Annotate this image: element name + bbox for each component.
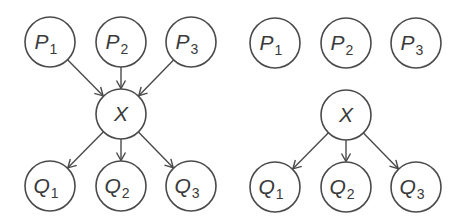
node-p3: P3 xyxy=(166,17,216,67)
node-label: X xyxy=(113,102,129,125)
node-x: X xyxy=(321,90,371,140)
node-x: X xyxy=(96,89,146,139)
node-label: X xyxy=(338,103,354,126)
panel-disconnected-nodes: P1P2P3XQ1Q2Q3 xyxy=(250,18,441,212)
bayesian-network-diagram: P1P2P3XQ1Q2Q3P1P2P3XQ1Q2Q3 xyxy=(0,0,469,218)
edge-x-to-q2 xyxy=(342,140,351,162)
edge-x-to-q2 xyxy=(117,139,126,161)
edge-p3-to-x xyxy=(139,60,174,96)
node-q1: Q1 xyxy=(25,161,75,211)
edge-p1-to-x xyxy=(68,60,104,96)
edge-x-to-q1 xyxy=(68,132,104,168)
edge-p2-to-x xyxy=(117,67,126,89)
node-q3: Q3 xyxy=(391,162,441,212)
node-p1: P1 xyxy=(250,18,300,68)
nodes: P1P2P3XQ1Q2Q3P1P2P3XQ1Q2Q3 xyxy=(25,17,441,212)
node-q1: Q1 xyxy=(250,162,300,212)
edge-x-to-q1 xyxy=(293,133,329,169)
node-q2: Q2 xyxy=(96,161,146,211)
node-p2: P2 xyxy=(96,17,146,67)
node-q2: Q2 xyxy=(321,162,371,212)
edge-x-to-q3 xyxy=(138,132,173,168)
node-p1: P1 xyxy=(25,17,75,67)
node-p3: P3 xyxy=(391,18,441,68)
node-p2: P2 xyxy=(321,18,371,68)
panel-connected-nodes: P1P2P3XQ1Q2Q3 xyxy=(25,17,216,211)
edge-x-to-q3 xyxy=(363,133,398,169)
node-q3: Q3 xyxy=(166,161,216,211)
